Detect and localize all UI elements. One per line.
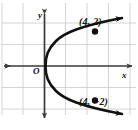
point-upper-marker xyxy=(92,28,98,34)
point-lower-label: (4, −2) xyxy=(79,96,108,107)
parabola-graph-figure: (4, 2) (4, −2) y x O xyxy=(0,0,138,130)
origin-label: O xyxy=(33,66,40,76)
coordinate-plane-svg xyxy=(0,0,138,130)
point-upper-label: (4, 2) xyxy=(79,16,102,27)
x-axis-label: x xyxy=(122,70,127,80)
y-axis-label: y xyxy=(38,10,42,20)
